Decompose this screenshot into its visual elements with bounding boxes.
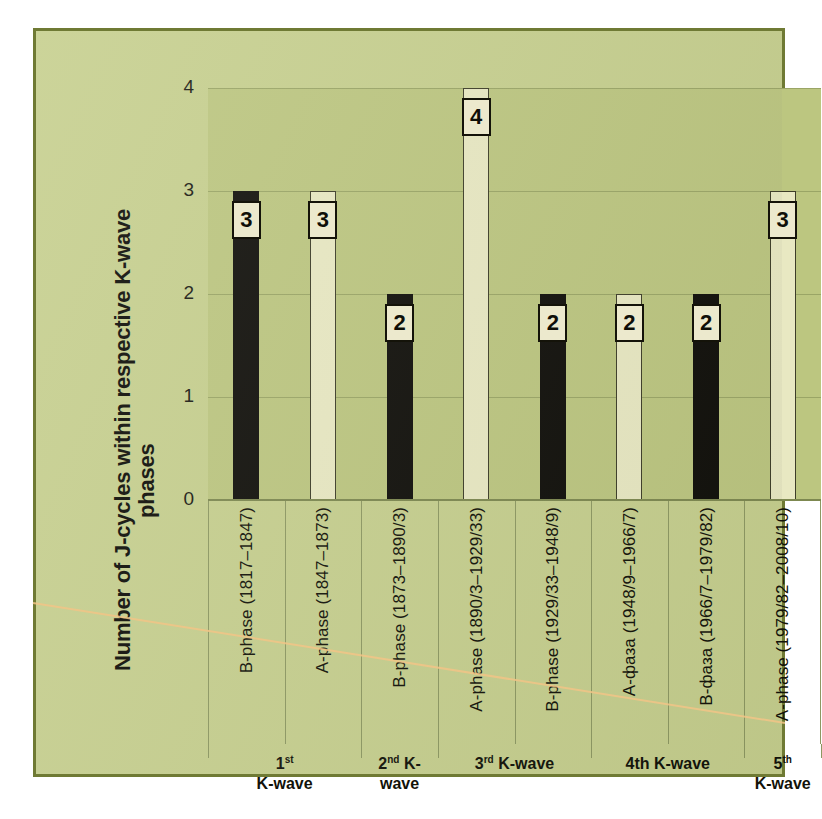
bar-value-label-6: 2 (615, 304, 644, 342)
y-tick-label-0: 0 (164, 488, 194, 510)
group-label-2nd-k-wave: 2nd K-wave (361, 754, 438, 794)
group-label-5th-k-wave: 5thK-wave (744, 754, 821, 794)
y-tick-label-2: 2 (164, 282, 194, 304)
bar-value-label-4: 4 (462, 98, 491, 136)
category-label-3: B-phase (1873–1890/3) (390, 507, 410, 688)
chart-frame: Number of J-cycles within respective K-w… (33, 28, 785, 777)
category-cell-8: A-phase (1979/82–2008/10) (744, 501, 821, 744)
bar-value-label-2: 3 (308, 201, 337, 239)
category-axis: B-phase (1817–1847)A-phase (1847–1873)B-… (208, 501, 821, 744)
category-label-1: B-phase (1817–1847) (237, 507, 257, 673)
category-cell-4: A-phase (1890/3–1929/33) (438, 501, 515, 744)
y-axis-title-line-1: Number of J-cycles within respective K-w… (110, 209, 136, 671)
category-label-2: A-phase (1847–1873) (313, 507, 333, 673)
y-tick-label-3: 3 (164, 179, 194, 201)
group-label-3rd-k-wave: 3rd K-wave (438, 754, 591, 774)
category-cell-6: A-фаза (1948/9–1966/7) (591, 501, 668, 744)
y-axis-title: Number of J-cycles within respective K-w… (88, 71, 140, 671)
category-label-6: A-фаза (1948/9–1966/7) (620, 507, 640, 696)
category-cell-1: B-phase (1817–1847) (208, 501, 285, 744)
bar-value-label-7: 2 (692, 304, 721, 342)
group-axis: 1stK-wave2nd K-wave3rd K-wave4th K-wave5… (208, 744, 821, 805)
category-cell-7: B-фаза (1966/7–1979/82) (668, 501, 745, 744)
bar-value-label-5: 2 (538, 304, 567, 342)
plot-area (208, 88, 821, 500)
y-tick-label-4: 4 (164, 76, 194, 98)
y-tick-label-1: 1 (164, 385, 194, 407)
category-cell-2: A-phase (1847–1873) (285, 501, 362, 744)
group-label-1st-k-wave: 1stK-wave (208, 754, 361, 794)
gridline-4 (208, 88, 821, 89)
group-label-4th-k-wave: 4th K-wave (591, 754, 744, 774)
category-label-5: B-phase (1929/33–1948/9) (543, 507, 563, 712)
category-label-7: B-фаза (1966/7–1979/82) (697, 507, 717, 706)
category-label-8: A-phase (1979/82–2008/10) (773, 507, 793, 721)
category-cell-5: B-phase (1929/33–1948/9) (515, 501, 592, 744)
gridline-1 (208, 397, 821, 398)
bar-value-label-3: 2 (385, 304, 414, 342)
y-axis-title-line-2: phases (134, 443, 160, 518)
bar-value-label-8: 3 (768, 201, 797, 239)
bar-4 (463, 88, 489, 500)
bar-value-label-1: 3 (232, 201, 261, 239)
category-label-4: A-phase (1890/3–1929/33) (467, 507, 487, 712)
category-cell-3: B-phase (1873–1890/3) (361, 501, 438, 744)
gridline-2 (208, 294, 821, 295)
gridline-3 (208, 191, 821, 192)
